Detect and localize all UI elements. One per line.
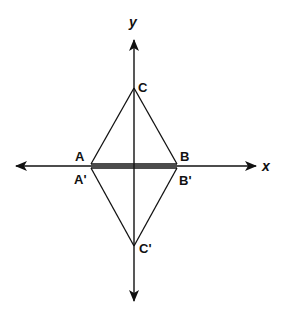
reflection-diagram: x y C A B A' B' C' bbox=[0, 0, 281, 313]
vertex-label-b-prime: B' bbox=[179, 173, 191, 188]
vertex-label-a: A bbox=[75, 149, 85, 164]
vertex-label-c: C bbox=[138, 80, 148, 95]
vertex-label-a-prime: A' bbox=[74, 172, 86, 187]
vertex-label-c-prime: C' bbox=[139, 241, 151, 256]
y-axis-label: y bbox=[128, 14, 138, 30]
x-axis-label: x bbox=[261, 158, 271, 174]
vertex-label-b: B bbox=[180, 149, 189, 164]
